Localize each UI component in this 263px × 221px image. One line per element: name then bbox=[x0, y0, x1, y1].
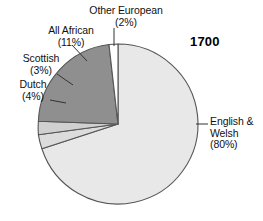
slice-label-all-african: All African (11%) bbox=[30, 25, 112, 48]
slice-label-other-european-name: Other European bbox=[89, 4, 162, 16]
slice-label-scottish-percent: (3%) bbox=[8, 65, 74, 77]
slice-label-all-african-percent: (11%) bbox=[30, 37, 112, 49]
pie-chart-figure: 1700 Other European (2%) All African (11… bbox=[0, 0, 263, 221]
slice-label-scottish: Scottish (3%) bbox=[8, 53, 74, 76]
chart-title: 1700 bbox=[190, 34, 220, 49]
slice-label-all-african-name: All African bbox=[48, 24, 94, 36]
slice-label-dutch-percent: (4%) bbox=[4, 91, 62, 103]
slice-label-english-welsh-percent: (80%) bbox=[210, 139, 263, 151]
slice-label-scottish-name: Scottish bbox=[23, 52, 60, 64]
slice-label-dutch: Dutch (4%) bbox=[4, 79, 62, 102]
slice-label-english-welsh-name-line1: English & bbox=[210, 115, 253, 127]
slice-label-english-welsh: English & Welsh (80%) bbox=[210, 116, 263, 151]
slice-label-dutch-name: Dutch bbox=[20, 78, 47, 90]
